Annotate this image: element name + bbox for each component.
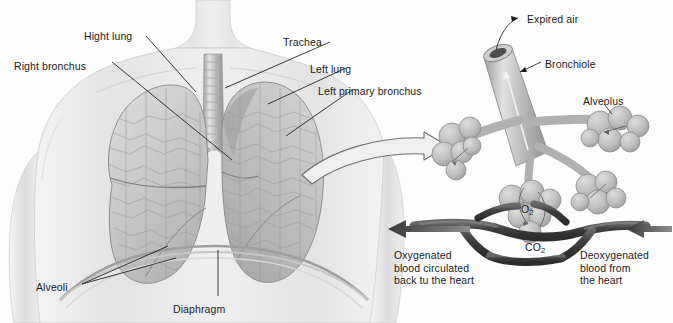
caption-oxygenated-blood: Oxygenated blood circulated back tu the … (394, 249, 474, 287)
label-left-primary-bronchus: Left primary bronchus (318, 85, 422, 98)
label-carbon-dioxide: CO2 (525, 241, 545, 256)
label-trachea: Trachea (283, 36, 322, 49)
caption-deoxygenated-blood: Deoxygenated blood from the heart (580, 249, 649, 287)
oxygen-subscript: 2 (529, 208, 533, 217)
label-right-bronchus: Right bronchus (14, 60, 86, 73)
label-diaphragm: Diaphragm (173, 303, 225, 316)
figure-artwork (0, 0, 673, 323)
carbon-dioxide-symbol: CO (525, 241, 541, 253)
label-alveolus: Alveolus (583, 95, 624, 108)
label-alveoli: Alveoli (36, 281, 68, 294)
label-oxygen: O2 (521, 203, 534, 218)
label-right-lung: Hight lung (84, 30, 132, 43)
label-bronchiole: Bronchiole (545, 58, 596, 71)
respiratory-system-figure: Hight lung Right bronchus Trachea Left l… (0, 0, 673, 323)
label-left-lung: Left lung (310, 63, 351, 76)
carbon-dioxide-subscript: 2 (541, 246, 545, 255)
label-expired-air: Expired air (527, 13, 578, 26)
